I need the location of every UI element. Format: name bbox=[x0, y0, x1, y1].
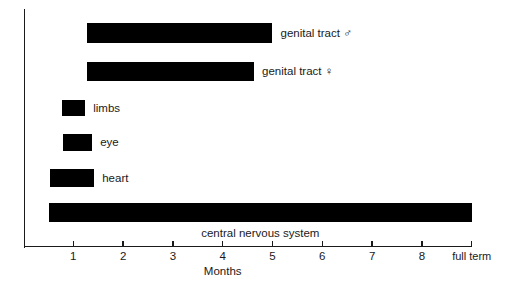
bar-label-text: genital tract bbox=[281, 27, 344, 39]
x-tick-label-1: 1 bbox=[70, 250, 76, 263]
x-tick-label-2: 2 bbox=[120, 250, 126, 263]
bar-label-genital-tract-male: genital tract ♂ bbox=[281, 27, 352, 40]
x-tick-label-4: 4 bbox=[219, 250, 225, 263]
bar-limbs bbox=[62, 100, 85, 116]
bar-label-heart: heart bbox=[102, 172, 128, 185]
x-tick-7 bbox=[371, 241, 372, 247]
x-tick-full-term bbox=[471, 241, 472, 247]
x-tick-label-full-term: full term bbox=[452, 250, 491, 263]
x-tick-label-8: 8 bbox=[419, 250, 425, 263]
x-tick-4 bbox=[222, 241, 223, 247]
critical-periods-bar-chart: 12345678full term genital tract ♂genital… bbox=[0, 0, 509, 287]
x-tick-1 bbox=[73, 241, 74, 247]
bar-central-nervous-system bbox=[49, 203, 472, 222]
bar-label-limbs: limbs bbox=[93, 102, 120, 115]
bar-label-eye: eye bbox=[100, 136, 119, 149]
bar-heart bbox=[50, 169, 94, 187]
bar-eye bbox=[63, 134, 92, 151]
x-tick-label-5: 5 bbox=[269, 250, 275, 263]
y-axis-line bbox=[24, 9, 25, 248]
x-axis-line bbox=[24, 246, 472, 247]
female-symbol-icon: ♀ bbox=[325, 65, 334, 77]
x-tick-label-6: 6 bbox=[319, 250, 325, 263]
x-tick-3 bbox=[172, 241, 173, 247]
bar-label-central-nervous-system: central nervous system bbox=[201, 227, 319, 240]
x-tick-label-7: 7 bbox=[369, 250, 375, 263]
x-tick-label-3: 3 bbox=[170, 250, 176, 263]
x-tick-2 bbox=[122, 241, 123, 247]
bar-genital-tract-male bbox=[87, 23, 272, 43]
bar-label-genital-tract-female: genital tract ♀ bbox=[262, 65, 333, 78]
x-tick-6 bbox=[322, 241, 323, 247]
x-tick-5 bbox=[272, 241, 273, 247]
male-symbol-icon: ♂ bbox=[343, 27, 352, 39]
bar-label-text: genital tract bbox=[262, 65, 325, 77]
x-tick-8 bbox=[421, 241, 422, 247]
bar-genital-tract-female bbox=[87, 62, 254, 81]
x-axis-title: Months bbox=[204, 265, 242, 278]
